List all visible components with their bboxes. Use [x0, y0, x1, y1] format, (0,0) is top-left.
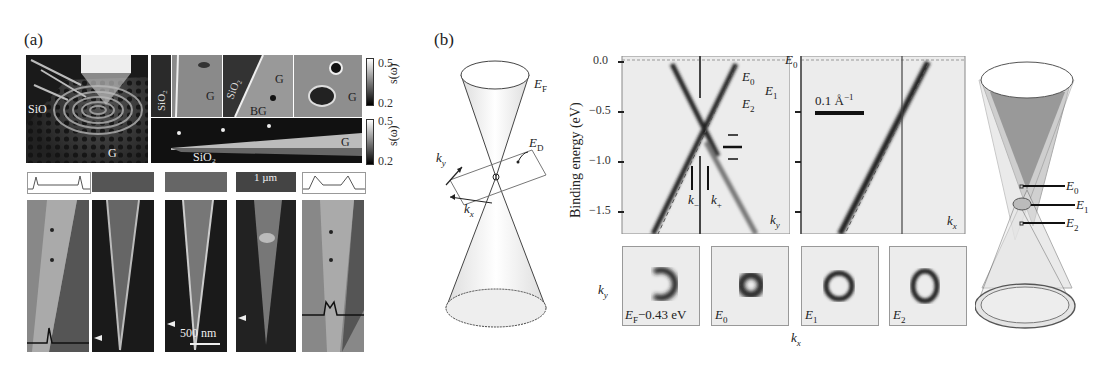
colorbar-bottom [366, 119, 374, 165]
svg-text:BG: BG [250, 104, 267, 117]
k-plus-label: k+ [711, 192, 722, 210]
panel-b-label: (b) [434, 30, 454, 50]
graphene-image-1: G [172, 55, 222, 117]
e1-level-label: E1 [765, 83, 777, 101]
e0-top-label: E0 [785, 52, 797, 70]
tall-image-1 [27, 200, 89, 352]
colorbar-bottom-min: 0.2 [378, 154, 393, 169]
strip-image-3 [165, 172, 227, 192]
kx-cut-axis-label: kx [947, 213, 957, 231]
svg-text:SiO₂: SiO₂ [193, 150, 216, 163]
svg-text:G: G [341, 135, 350, 149]
map-1-label: EF−0.43 eV [625, 307, 686, 325]
map-4-label: E2 [893, 307, 905, 325]
e2-level-label: E2 [742, 96, 754, 114]
cone-e1-label: E1 [1076, 197, 1088, 215]
map-3-label: E1 [805, 307, 817, 325]
y-tick-1: −0.5 [589, 103, 611, 118]
tall-image-2 [92, 200, 154, 352]
svg-text:SiO₂: SiO₂ [155, 90, 167, 111]
momentum-scale-label: 0.1 Å−1 [815, 92, 853, 109]
cone-e0-label: E0 [1066, 178, 1078, 196]
colorbar-top-min: 0.2 [378, 96, 393, 111]
svg-text:G: G [348, 90, 357, 104]
profile-plot-left [27, 172, 91, 194]
svg-text:G: G [108, 146, 117, 160]
tall-image-5 [302, 200, 364, 352]
scale-bar-500nm-label: 500 nm [180, 326, 216, 341]
y-tick-3: −1.5 [589, 203, 611, 218]
k-minus-label: k− [688, 192, 699, 210]
binding-energy-axis-label: Binding energy (eV) [568, 102, 584, 218]
e0-level-label: E0 [742, 69, 754, 87]
ed-label: ED [529, 135, 543, 153]
svg-text:G: G [206, 89, 215, 103]
svg-text:G: G [275, 72, 284, 86]
tall-image-4 [236, 200, 296, 352]
cone-e2-label: E2 [1066, 215, 1078, 233]
ky-cut-axis-label: ky [770, 212, 780, 230]
maps-ky-label: ky [598, 282, 608, 300]
scale-bar-1um-label: 1 µm [254, 171, 277, 183]
y-tick-0: 0.0 [593, 53, 608, 68]
near-field-tip-image: SiO G [26, 55, 148, 163]
y-tick-2: −1.0 [589, 153, 611, 168]
colorbar-top-label: s(ω) [386, 63, 401, 84]
strip-image-2 [92, 172, 154, 192]
graphene-defect-image: G [294, 55, 362, 117]
arpes-kx-cut [795, 56, 967, 234]
ky-axis-label: ky [436, 150, 446, 168]
dirac-cone-diagram [440, 55, 560, 375]
ef-label: EF [534, 76, 547, 94]
kx-axis-label: kx [464, 201, 474, 219]
colorbar-bottom-label: s(ω) [386, 125, 401, 146]
sio2-ribbon-image: G SiO₂ [151, 118, 362, 163]
graphene-bilayer-image: SiO₂ G BG [223, 55, 293, 117]
svg-text:SiO: SiO [28, 102, 47, 116]
map-2-label: E0 [715, 307, 727, 325]
maps-kx-label: kx [791, 330, 801, 348]
profile-plot-right [302, 172, 366, 194]
colorbar-top [366, 58, 374, 106]
panel-a-label: (a) [24, 30, 43, 50]
sio2-strip-image: SiO₂ [151, 55, 171, 117]
